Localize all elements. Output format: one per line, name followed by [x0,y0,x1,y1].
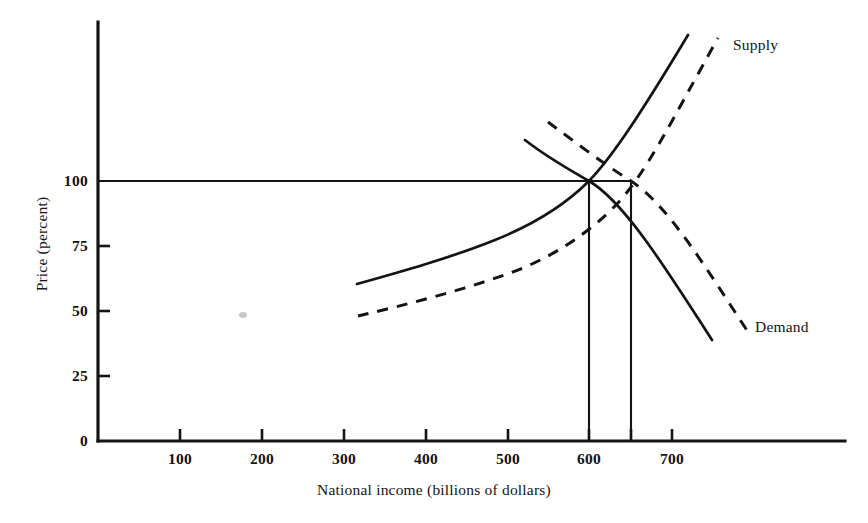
x-tick-label-400: 400 [396,450,456,468]
equilibrium-guides [98,181,631,441]
chart-figure: 100 75 50 25 0 100 200 300 400 500 600 7… [0,0,868,523]
y-tick-label-0: 0 [30,432,88,450]
y-tick-label-25: 25 [30,367,88,385]
x-tick-label-700: 700 [642,450,702,468]
x-tick-label-100: 100 [150,450,210,468]
x-tick-label-200: 200 [232,450,292,468]
supply-curve-label: Supply [733,36,778,54]
x-axis-title: National income (billions of dollars) [0,481,868,499]
demand-curve-solid [525,140,712,340]
x-tick-label-600: 600 [559,450,619,468]
demand-curve-label: Demand [755,318,809,336]
x-tick-marks [180,429,672,441]
supply-curve-solid [357,35,688,284]
y-axis-title: Price (percent) [33,164,51,324]
supply-curve-dashed [358,38,718,316]
chart-canvas [0,0,868,523]
x-tick-label-300: 300 [314,450,374,468]
axes-group [98,22,845,441]
scan-speck [239,312,247,318]
demand-curve-dashed [548,122,750,335]
x-tick-label-500: 500 [478,450,538,468]
y-tick-marks [98,246,110,376]
